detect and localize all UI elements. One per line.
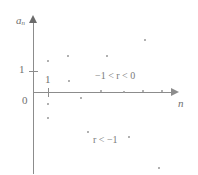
data-point (47, 117, 49, 119)
x-axis-tick-label-1: 1 (45, 74, 51, 85)
y-axis-line (33, 22, 34, 174)
y-axis-label-subscript: n (22, 19, 26, 27)
y-axis-tick-1 (29, 71, 38, 72)
data-point (87, 131, 89, 133)
data-point (47, 103, 49, 105)
sequence-scatter-figure: an n 1 1 0 −1 < r < 0 r < −1 (0, 0, 198, 175)
data-point (123, 91, 125, 93)
origin-label: 0 (22, 95, 28, 106)
data-point (158, 167, 160, 169)
y-axis-label: an (16, 15, 25, 27)
data-point (142, 90, 144, 92)
data-point (161, 90, 163, 92)
x-axis-line (33, 92, 173, 93)
annotation-upper-region: −1 < r < 0 (95, 71, 135, 81)
data-point (100, 90, 102, 92)
x-axis-label: n (178, 98, 184, 109)
data-point (68, 80, 70, 82)
data-point (106, 55, 108, 57)
y-axis-tick-label-1: 1 (19, 64, 25, 75)
x-axis-arrow-icon (171, 88, 179, 96)
annotation-lower-region: r < −1 (93, 135, 118, 145)
data-point (47, 60, 49, 62)
data-point (128, 136, 130, 138)
data-point (67, 55, 69, 57)
x-axis-tick-1 (48, 88, 49, 97)
data-point (144, 39, 146, 41)
data-point (80, 97, 82, 99)
y-axis-arrow-icon (29, 15, 37, 23)
